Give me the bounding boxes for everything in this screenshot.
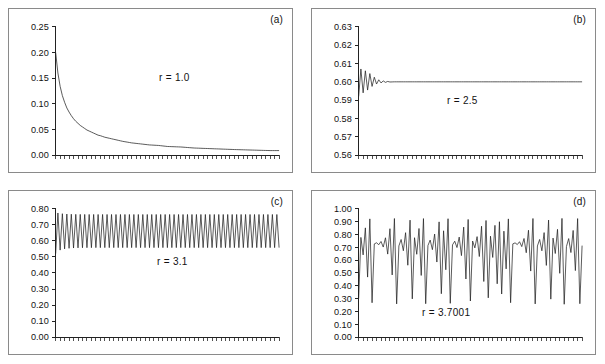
svg-text:0.50: 0.50 xyxy=(31,252,49,262)
svg-text:0.61: 0.61 xyxy=(334,59,352,69)
svg-text:0.10: 0.10 xyxy=(31,99,49,109)
svg-text:0.05: 0.05 xyxy=(31,125,49,135)
panel-b-annotation: r = 2.5 xyxy=(447,95,478,107)
svg-text:0.63: 0.63 xyxy=(334,22,352,32)
svg-text:0.60: 0.60 xyxy=(334,77,352,87)
svg-text:0.30: 0.30 xyxy=(334,294,352,304)
plot-b: 0.560.570.580.590.600.610.620.63 xyxy=(312,9,595,172)
svg-text:0.50: 0.50 xyxy=(334,268,352,278)
svg-text:0.20: 0.20 xyxy=(31,48,49,58)
panel-c-label: (c) xyxy=(271,196,283,208)
plot-c: 0.000.100.200.300.400.500.600.700.80 xyxy=(9,191,292,354)
svg-text:0.80: 0.80 xyxy=(334,230,352,240)
svg-text:1.00: 1.00 xyxy=(334,204,352,214)
svg-text:0.58: 0.58 xyxy=(334,114,352,124)
svg-text:0.70: 0.70 xyxy=(31,220,49,230)
svg-text:0.60: 0.60 xyxy=(31,236,49,246)
panel-b: 0.560.570.580.590.600.610.620.63 (b) r =… xyxy=(311,8,596,173)
plot-a: 0.000.050.100.150.200.25 xyxy=(9,9,292,172)
figure-logistic-map-time-series: 0.000.050.100.150.200.25 (a) r = 1.0 0.5… xyxy=(0,0,605,364)
svg-text:0.20: 0.20 xyxy=(334,307,352,317)
svg-text:0.15: 0.15 xyxy=(31,73,49,83)
svg-text:0.10: 0.10 xyxy=(31,316,49,326)
svg-text:0.00: 0.00 xyxy=(334,332,352,342)
svg-text:0.00: 0.00 xyxy=(31,150,49,160)
panel-c-annotation: r = 3.1 xyxy=(157,256,188,268)
panel-d-annotation: r = 3.7001 xyxy=(422,307,470,319)
svg-text:0.30: 0.30 xyxy=(31,284,49,294)
svg-text:0.10: 0.10 xyxy=(334,320,352,330)
svg-text:0.90: 0.90 xyxy=(334,217,352,227)
svg-text:0.70: 0.70 xyxy=(334,243,352,253)
panel-a-label: (a) xyxy=(270,14,283,26)
panel-c: 0.000.100.200.300.400.500.600.700.80 (c)… xyxy=(8,190,293,355)
panel-a-annotation: r = 1.0 xyxy=(159,72,190,84)
plot-d: 0.000.100.200.300.400.500.600.700.800.90… xyxy=(312,191,595,354)
svg-text:0.62: 0.62 xyxy=(334,40,352,50)
svg-text:0.56: 0.56 xyxy=(334,150,352,160)
svg-text:0.00: 0.00 xyxy=(31,332,49,342)
panel-a: 0.000.050.100.150.200.25 (a) r = 1.0 xyxy=(8,8,293,173)
svg-text:0.25: 0.25 xyxy=(31,22,49,32)
svg-text:0.60: 0.60 xyxy=(334,255,352,265)
svg-text:0.40: 0.40 xyxy=(334,281,352,291)
panel-b-label: (b) xyxy=(573,14,586,26)
svg-text:0.59: 0.59 xyxy=(334,95,352,105)
panel-d: 0.000.100.200.300.400.500.600.700.800.90… xyxy=(311,190,596,355)
svg-text:0.20: 0.20 xyxy=(31,300,49,310)
svg-text:0.80: 0.80 xyxy=(31,204,49,214)
svg-text:0.57: 0.57 xyxy=(334,132,352,142)
panel-d-label: (d) xyxy=(573,196,586,208)
svg-text:0.40: 0.40 xyxy=(31,268,49,278)
